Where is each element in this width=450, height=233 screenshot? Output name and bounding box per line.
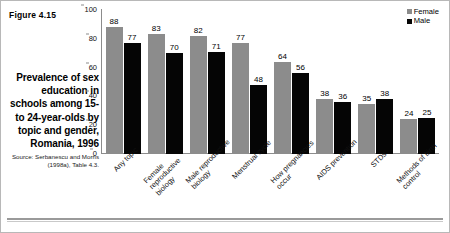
figure-container: Figure 4.15 Prevalence of sex education …: [0, 0, 450, 233]
bar-group: 2425: [397, 9, 439, 154]
bar-wrapper: 38: [376, 9, 393, 154]
bar-value-label: 83: [152, 24, 161, 33]
bar-value-label: 77: [236, 33, 245, 42]
bar-value-label: 35: [362, 94, 371, 103]
figure-number: Figure 4.15: [9, 10, 56, 20]
bar-value-label: 56: [296, 63, 305, 72]
bar-group: 8370: [144, 9, 186, 154]
y-axis-tick-label: 80: [89, 33, 100, 42]
bar-male[interactable]: 77: [124, 43, 141, 154]
bar-group: 7748: [228, 9, 270, 154]
footer-rule-secondary: [7, 221, 443, 222]
bar-wrapper: 48: [250, 9, 267, 154]
y-axis-tick-mark: [86, 91, 89, 92]
bar-female[interactable]: 83: [148, 34, 165, 154]
bar-groups: 88778370827177486456383635382425: [102, 9, 439, 154]
bar-female[interactable]: 77: [232, 43, 249, 154]
y-axis-tick-label: 40: [89, 91, 100, 100]
bar-male[interactable]: 38: [376, 99, 393, 154]
y-axis-tick-label: 20: [89, 120, 100, 129]
bar-wrapper: 77: [232, 9, 249, 154]
plot-area: 020406080100 887783708271774864563836353…: [101, 9, 439, 154]
x-axis-labels: Any topicFemale reproductive biologyMale…: [102, 155, 439, 225]
bar-female[interactable]: 82: [190, 36, 207, 154]
x-axis-label-slot: Methods of birth control: [397, 155, 439, 225]
bar-female[interactable]: 64: [274, 62, 291, 154]
bar-wrapper: 88: [106, 9, 123, 154]
bar-wrapper: 38: [316, 9, 333, 154]
bar-value-label: 64: [278, 52, 287, 61]
bar-wrapper: 25: [418, 9, 435, 154]
bar-value-label: 88: [110, 17, 119, 26]
bar-wrapper: 70: [166, 9, 183, 154]
bar-wrapper: 36: [334, 9, 351, 154]
bar-group: 3538: [355, 9, 397, 154]
bar-value-label: 25: [422, 108, 431, 117]
bar-wrapper: 56: [292, 9, 309, 154]
bar-value-label: 36: [338, 92, 347, 101]
y-axis-tick-mark: [86, 62, 89, 63]
y-axis-tick-mark: [86, 33, 89, 34]
bar-value-label: 24: [404, 109, 413, 118]
bar-value-label: 82: [194, 26, 203, 35]
footer-rule: [7, 218, 443, 220]
bar-wrapper: 24: [400, 9, 417, 154]
x-axis-label-slot: Male reproductive biology: [186, 155, 228, 225]
bar-value-label: 38: [320, 89, 329, 98]
y-axis-tick-mark: [90, 149, 93, 150]
y-axis-tick-label: 100: [84, 5, 100, 14]
bar-value-label: 71: [212, 42, 221, 51]
bar-wrapper: 35: [358, 9, 375, 154]
bar-wrapper: 71: [208, 9, 225, 154]
bar-group: 8271: [186, 9, 228, 154]
bar-wrapper: 64: [274, 9, 291, 154]
bar-value-label: 48: [254, 75, 263, 84]
y-axis-tick-mark: [81, 5, 84, 6]
x-axis-label-slot: Menstrual cycle: [228, 155, 270, 225]
x-axis-label-slot: Female reproductive biology: [144, 155, 186, 225]
bar-value-label: 77: [128, 33, 137, 42]
bar-group: 6456: [271, 9, 313, 154]
bar-female[interactable]: 88: [106, 27, 123, 154]
x-axis-label-slot: AIDS prevention: [313, 155, 355, 225]
bar-wrapper: 82: [190, 9, 207, 154]
x-axis-label-slot: How pregnancies occur: [271, 155, 313, 225]
bar-male[interactable]: 70: [166, 53, 183, 154]
bar-wrapper: 83: [148, 9, 165, 154]
bar-female[interactable]: 24: [400, 119, 417, 154]
bar-value-label: 38: [380, 89, 389, 98]
figure-source-note: Source: Serbanescu and Morris (1998a), T…: [5, 153, 99, 168]
bar-value-label: 70: [170, 43, 179, 52]
y-axis-tick-label: 60: [89, 62, 100, 71]
bar-group: 8877: [102, 9, 144, 154]
bar-wrapper: 77: [124, 9, 141, 154]
figure-caption-title: Prevalence of sex education in schools a…: [5, 71, 99, 150]
y-axis-tick-label: 0: [93, 149, 100, 158]
x-axis-label-slot: STDs: [355, 155, 397, 225]
x-axis-label-slot: Any topic: [102, 155, 144, 225]
bar-group: 3836: [313, 9, 355, 154]
bar-female[interactable]: 35: [358, 104, 375, 154]
y-axis-tick-mark: [86, 120, 89, 121]
